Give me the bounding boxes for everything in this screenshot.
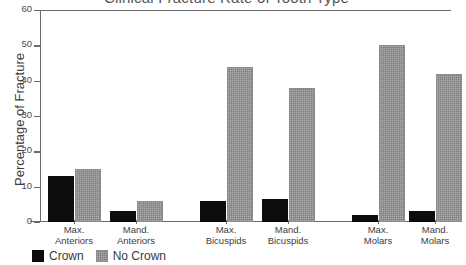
- x-axis-category-line: Mand.: [96, 224, 176, 235]
- y-tick-label: 50: [21, 38, 32, 49]
- x-axis-category-line: Molars: [395, 235, 466, 246]
- bar-no-crown[interactable]: [289, 88, 315, 222]
- bar-crown[interactable]: [262, 199, 288, 222]
- bar-no-crown[interactable]: [379, 45, 405, 222]
- bar-crown[interactable]: [352, 215, 378, 222]
- legend-label: No Crown: [113, 249, 166, 263]
- x-axis-category-label: Mand.Anteriors: [96, 224, 176, 246]
- y-tick-label: 10: [21, 180, 32, 191]
- bar-crown[interactable]: [200, 201, 226, 222]
- x-axis-labels: Max.AnteriorsMand.AnteriorsMax.Bicuspids…: [40, 224, 451, 248]
- x-axis-category-label: Mand.Bicuspids: [248, 224, 328, 246]
- y-tick-label: 30: [21, 109, 32, 120]
- chart-legend: CrownNo Crown: [32, 249, 166, 263]
- legend-label: Crown: [49, 249, 84, 263]
- x-axis-category-line: Bicuspids: [248, 235, 328, 246]
- y-tick-label: 20: [21, 144, 32, 155]
- x-axis-category-line: Mand.: [248, 224, 328, 235]
- legend-swatch-nocrown: [96, 250, 108, 262]
- bar-crown[interactable]: [409, 211, 435, 222]
- bar-crown[interactable]: [48, 176, 74, 222]
- x-axis-category-line: Mand.: [395, 224, 466, 235]
- bar-no-crown[interactable]: [75, 169, 101, 222]
- y-tick-label: 60: [21, 3, 32, 14]
- bar-no-crown[interactable]: [137, 201, 163, 222]
- legend-item-crown[interactable]: Crown: [32, 249, 84, 263]
- x-axis-category-line: Anteriors: [96, 235, 176, 246]
- y-tick-label: 0: [27, 215, 32, 226]
- bar-crown[interactable]: [110, 211, 136, 222]
- x-axis-category-label: Mand.Molars: [395, 224, 466, 246]
- bar-no-crown[interactable]: [436, 74, 462, 222]
- legend-item-nocrown[interactable]: No Crown: [96, 249, 166, 263]
- y-tick-label: 40: [21, 74, 32, 85]
- legend-swatch-crown: [32, 250, 44, 262]
- bars-layer: [40, 10, 451, 222]
- y-tick-mark: [34, 222, 40, 223]
- bar-no-crown[interactable]: [227, 67, 253, 222]
- chart-title: Clinical Fracture Rate of Tooth Type: [0, 0, 453, 6]
